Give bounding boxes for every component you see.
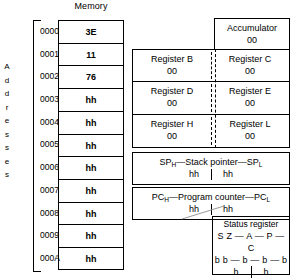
memory-cell: hh	[59, 157, 123, 180]
address-cell: 0009	[40, 224, 58, 247]
addresses-label-letter: s	[1, 168, 13, 182]
addresses-label-letter: A	[1, 60, 13, 74]
register-row: Register H00Register L00	[133, 115, 289, 147]
register-value: 00	[211, 97, 289, 109]
stack-pointer-box: SPH—Stack pointer—SPL hhhh	[132, 152, 290, 185]
addresses-label-letter: s	[1, 128, 13, 142]
register-label: Register C	[211, 53, 289, 65]
status-register-bits: b b — b — b — b	[213, 254, 289, 266]
memory-title: Memory	[58, 1, 124, 11]
register-value: 00	[211, 130, 289, 142]
sp-prefix-sub: H	[172, 161, 177, 168]
status-hex-divider	[251, 266, 252, 278]
addresses-label-letter: r	[1, 101, 13, 115]
register-label: Register D	[133, 85, 211, 97]
sp-high-value: hh	[177, 169, 211, 180]
address-cell: 0004	[40, 111, 58, 134]
address-cell: 0003	[40, 88, 58, 111]
pc-prefix-sub: H	[164, 196, 169, 203]
stack-pointer-title: SPH—Stack pointer—SPL	[133, 153, 289, 169]
register-cell-left: Register D00	[133, 82, 211, 113]
memory-cell: hh	[59, 89, 123, 112]
memory-cell: 3E	[59, 21, 123, 44]
pc-high-value: hh	[177, 204, 211, 215]
register-value: 00	[133, 130, 211, 142]
address-cell: 0008	[40, 202, 58, 225]
program-counter-title: PCH—Program counter—PCL	[133, 188, 289, 204]
register-value: 00	[133, 65, 211, 77]
address-cell: 0000	[40, 20, 58, 43]
register-row: Register B00Register C00	[133, 50, 289, 82]
addresses-label-letter: d	[1, 74, 13, 88]
register-cell-right: Register C00	[211, 50, 289, 81]
addresses-label: Addresses	[1, 60, 13, 182]
register-value: 00	[133, 97, 211, 109]
sp-suffix-sub: L	[259, 161, 263, 168]
register-pair-divider	[211, 117, 212, 145]
pc-title-text: —Program counter—	[169, 192, 254, 202]
address-cell: 000A	[40, 247, 58, 270]
memory-cell: hh	[59, 180, 123, 203]
pc-low-value: hh	[211, 204, 245, 215]
pc-suffix: PC	[254, 192, 267, 202]
accumulator-box: Accumulator 00	[214, 18, 290, 50]
sp-title-text: —Stack pointer—	[176, 157, 247, 167]
memory-table: 3E1176hhhhhhhhhhhhhhhh	[58, 20, 124, 270]
sp-prefix: SP	[160, 157, 172, 167]
address-column: 0000000100020003000400050006000700080009…	[40, 20, 58, 270]
address-cell: 0005	[40, 133, 58, 156]
register-cell-right: Register L00	[211, 115, 289, 147]
register-cell-left: Register H00	[133, 115, 211, 147]
register-label: Register B	[133, 53, 211, 65]
register-row: Register D00Register E00	[133, 82, 289, 114]
status-register-flags: S Z — A — P — C	[213, 230, 289, 254]
sp-low-value: hh	[211, 169, 245, 180]
memory-cell: hh	[59, 135, 123, 158]
status-register-hex: hh	[213, 266, 289, 278]
memory-cell: hh	[59, 248, 123, 271]
addresses-label-letter: e	[1, 114, 13, 128]
memory-cell: hh	[59, 112, 123, 135]
status-hex-left: h	[221, 266, 251, 278]
memory-cell: 76	[59, 66, 123, 89]
address-cell: 0006	[40, 156, 58, 179]
sp-suffix: SP	[247, 157, 259, 167]
address-cell: 0007	[40, 179, 58, 202]
memory-cell: hh	[59, 203, 123, 226]
addresses-label-letter: e	[1, 155, 13, 169]
register-pair-divider	[211, 84, 212, 111]
status-register-box: Status register S Z — A — P — C b b — b …	[212, 216, 290, 275]
addresses-label-letter: s	[1, 141, 13, 155]
accumulator-value: 00	[215, 34, 289, 46]
register-cell-left: Register B00	[133, 50, 211, 81]
pc-prefix: PC	[152, 192, 165, 202]
memory-cell: 11	[59, 44, 123, 67]
register-value: 00	[211, 65, 289, 77]
register-pair-divider	[211, 52, 212, 79]
pc-divider	[211, 204, 212, 215]
program-counter-values: hhhh	[133, 204, 289, 215]
register-label: Register E	[211, 85, 289, 97]
memory-cell: hh	[59, 225, 123, 248]
pc-suffix-sub: L	[267, 196, 271, 203]
sp-divider	[211, 169, 212, 180]
register-block: Register B00Register C00Register D00Regi…	[132, 49, 290, 148]
stack-pointer-values: hhhh	[133, 169, 289, 180]
status-register-title: Status register	[213, 217, 289, 230]
address-cell: 0001	[40, 43, 58, 66]
status-hex-right: h	[251, 266, 281, 278]
register-cell-right: Register E00	[211, 82, 289, 113]
accumulator-divider-dash	[215, 49, 216, 148]
address-cell: 0002	[40, 65, 58, 88]
register-label: Register H	[133, 118, 211, 130]
addresses-label-letter: d	[1, 87, 13, 101]
accumulator-label: Accumulator	[215, 22, 289, 34]
register-label: Register L	[211, 118, 289, 130]
